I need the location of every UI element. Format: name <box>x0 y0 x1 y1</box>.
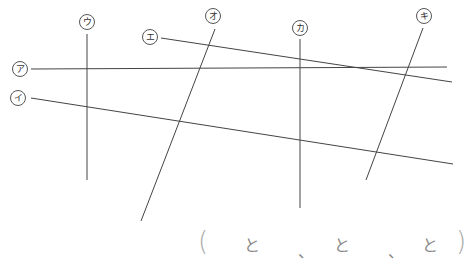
label-ka: カ <box>292 20 308 36</box>
comma-2: 、 <box>388 238 404 262</box>
line-ki <box>366 28 423 180</box>
open-paren: ( <box>198 226 208 256</box>
label-u: ウ <box>79 14 95 30</box>
line-e <box>161 38 452 82</box>
answer-blank: ( と 、 と 、 と ) <box>198 228 468 260</box>
close-paren: ) <box>456 226 466 256</box>
comma-1: 、 <box>298 238 314 262</box>
label-i: イ <box>10 90 26 106</box>
line-diagram <box>0 0 473 264</box>
to-1: と <box>244 232 260 256</box>
line-i <box>31 98 453 164</box>
label-ki: キ <box>416 8 432 24</box>
label-a: ア <box>12 61 28 77</box>
label-o: オ <box>205 8 221 24</box>
to-2: と <box>334 232 350 256</box>
to-3: と <box>422 232 438 256</box>
line-a <box>31 67 447 69</box>
label-e: エ <box>142 29 158 45</box>
